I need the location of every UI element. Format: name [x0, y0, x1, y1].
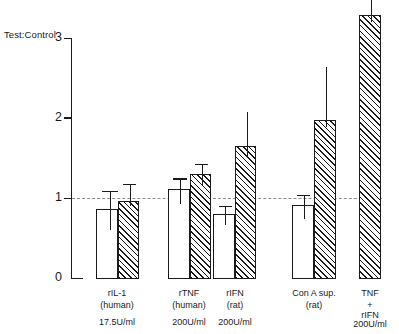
y-axis-line [71, 38, 72, 279]
y-tick-label-0: 0 [40, 271, 62, 283]
errorbar-cap-open-ril1 [102, 191, 118, 192]
bar-open-rtnf [168, 189, 190, 279]
y-tick-label-1: 1 [40, 191, 62, 203]
group-name-tnf: TNF [335, 288, 399, 300]
x-baseline [71, 278, 83, 279]
errorbar-cap-hatched-ril1 [123, 184, 136, 185]
errorbar-stem-open-rifn [225, 206, 226, 225]
group-species-ril1: (human) [82, 300, 152, 312]
bar-hatched-tnf-rifn [359, 15, 381, 280]
errorbar-cap-hatched-rtnf [195, 164, 208, 165]
y-tick-3 [64, 38, 71, 39]
bar-hatched-rtnf [190, 174, 212, 279]
bar-open-rifn [213, 214, 235, 279]
bar-hatched-conasup [314, 120, 336, 279]
group-name-rifn: rIFN [200, 288, 270, 300]
group-label-rifn: rIFN (rat) [200, 288, 270, 311]
errorbar-stem-hatched-conasup [326, 67, 327, 127]
y-tick-2 [64, 117, 71, 118]
y-tick-label-3: 3 [40, 31, 62, 43]
bar-open-ril1 [96, 209, 118, 279]
group-name-ril1: rIL-1 [82, 288, 152, 300]
bar-hatched-rifn [235, 146, 257, 279]
bar-chart-figure: Test:Control 3 2 1 0 rIL-1 [0, 0, 399, 334]
errorbar-stem-open-rtnf [180, 178, 181, 204]
errorbar-cap-open-rtnf [173, 178, 187, 179]
errorbar-cap-open-rifn [219, 206, 232, 207]
errorbar-cap-open-conasup [297, 195, 310, 196]
group-dose-rifn: 200U/ml [200, 317, 270, 327]
group-label-ril1: rIL-1 (human) [82, 288, 152, 311]
errorbar-stem-hatched-ril1 [130, 184, 131, 206]
group-label-tnf-rifn: TNF + rIFN [335, 288, 399, 321]
group-plus-sign: + [335, 300, 399, 310]
group-dose-ril1: 17.5U/ml [82, 317, 152, 327]
group-species-rifn: (rat) [200, 300, 270, 312]
errorbar-stem-open-ril1 [110, 191, 111, 231]
errorbar-stem-hatched-rifn [247, 112, 248, 156]
y-tick-1 [64, 198, 71, 199]
y-tick-label-2: 2 [40, 111, 62, 123]
errorbar-stem-open-conasup [304, 195, 305, 219]
group-dose-tnf-rifn: 200U/ml [335, 319, 399, 329]
errorbar-stem-hatched-rtnf [202, 164, 203, 186]
errorbar-stem-hatched-tnf-rifn [371, 0, 372, 22]
bar-hatched-ril1 [118, 201, 140, 279]
